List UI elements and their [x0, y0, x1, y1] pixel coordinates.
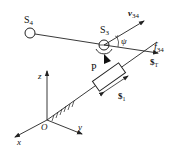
psi-angle-arc — [117, 37, 119, 47]
svg-text:$1: $1 — [118, 91, 126, 102]
label-origin: O — [41, 122, 48, 132]
svg-text:$T: $T — [150, 57, 159, 68]
label-z: z — [37, 71, 42, 81]
y-axis — [47, 120, 82, 134]
svg-text:v34: v34 — [128, 8, 140, 20]
link-s4-s3 — [35, 34, 99, 44]
label-s1-sub: 1 — [123, 96, 126, 102]
svg-text:f34: f34 — [154, 41, 164, 54]
slider-block-p — [92, 63, 125, 91]
label-s4-sub: 4 — [30, 19, 34, 27]
label-p: P — [91, 62, 97, 73]
label-v34-sub: 34 — [132, 12, 140, 20]
svg-text:S3: S3 — [100, 24, 110, 37]
label-f34-sub: 34 — [157, 46, 165, 54]
label-st-sub: T — [155, 62, 159, 68]
svg-text:S4: S4 — [24, 14, 34, 27]
ground-hatch — [52, 101, 74, 121]
label-psi: ψ — [121, 36, 127, 46]
joint-s4 — [25, 28, 35, 38]
pin-wedge — [104, 54, 111, 64]
label-x: x — [16, 137, 21, 147]
st-arrow — [104, 45, 158, 53]
mechanism-diagram: S4 S3 v34 ψ $T f34 P $1 z x y O — [0, 0, 179, 151]
label-s3-sub: 3 — [106, 29, 110, 37]
label-y: y — [77, 122, 82, 132]
